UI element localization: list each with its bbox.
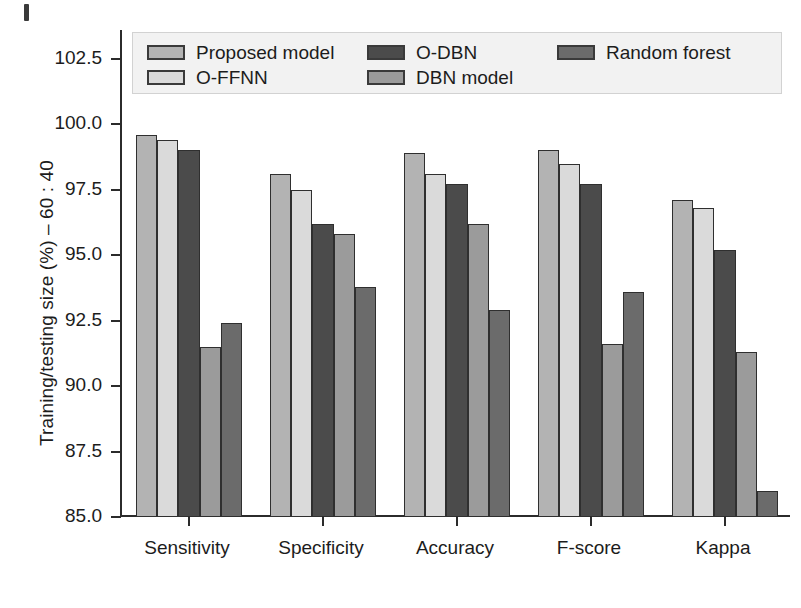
y-axis-tick [111,123,121,125]
y-axis-tick [111,58,121,60]
bar-o-ffnn-kappa [693,208,714,517]
bar-dbn-model-kappa [736,352,757,517]
bar-o-ffnn-specificity [291,190,312,517]
y-axis-tick-label: 100.0 [0,112,102,134]
legend-column-2: O-DBNDBN model [367,40,513,90]
figure: Training/testing size (%) – 60 : 40 85.0… [0,0,801,608]
bar-dbn-model-specificity [334,234,355,517]
legend-label: O-DBN [416,43,477,62]
y-axis-tick-label: 95.0 [0,243,102,265]
x-axis-tick [724,516,726,526]
bar-random-forest-sensitivity [221,323,242,517]
bar-dbn-model-accuracy [468,224,489,517]
legend-label: Random forest [606,43,731,62]
plot-area [120,30,790,517]
legend-entry-o-dbn: O-DBN [367,40,513,65]
y-axis-tick-label: 85.0 [0,505,102,527]
bar-o-dbn-sensitivity [178,150,199,517]
y-axis-tick [111,451,121,453]
legend-swatch-icon [557,45,595,60]
bar-random-forest-accuracy [489,310,510,517]
bar-random-forest-specificity [355,287,376,517]
legend-swatch-icon [367,70,405,85]
legend-column-1: Proposed modelO-FFNN [147,40,334,90]
bar-dbn-model-f-score [602,344,623,517]
y-axis-tick [111,385,121,387]
y-axis-tick [111,254,121,256]
legend-entry-o-ffnn: O-FFNN [147,65,334,90]
legend-swatch-icon [147,45,185,60]
bar-o-ffnn-accuracy [425,174,446,517]
legend-entry-proposed-model: Proposed model [147,40,334,65]
x-axis-tick-label-sensitivity: Sensitivity [144,537,230,559]
bar-random-forest-kappa [757,491,778,517]
bar-random-forest-f-score [623,292,644,517]
legend-swatch-icon [147,70,185,85]
chart-legend: Proposed modelO-FFNN O-DBNDBN model Rand… [132,32,782,94]
bar-o-ffnn-sensitivity [157,140,178,517]
plot-inner [122,30,790,515]
x-axis-tick [456,516,458,526]
bar-o-dbn-f-score [580,184,601,517]
x-axis-tick [188,516,190,526]
legend-column-3: Random forest [557,40,731,65]
legend-swatch-icon [367,45,405,60]
y-axis-tick-label: 90.0 [0,374,102,396]
y-axis-tick-label: 102.5 [0,47,102,69]
bar-proposed-model-f-score [538,150,559,517]
bar-proposed-model-sensitivity [136,135,157,517]
bar-o-dbn-specificity [312,224,333,517]
legend-label: DBN model [416,68,513,87]
bar-o-ffnn-f-score [559,164,580,517]
bar-o-dbn-kappa [714,250,735,517]
x-axis-tick [322,516,324,526]
bar-proposed-model-kappa [672,200,693,517]
x-axis-tick-label-accuracy: Accuracy [416,537,494,559]
bar-o-dbn-accuracy [446,184,467,517]
legend-entry-random-forest: Random forest [557,40,731,65]
y-axis-tick-label: 97.5 [0,178,102,200]
bar-dbn-model-sensitivity [200,347,221,517]
y-axis-tick [111,320,121,322]
x-axis-tick-label-specificity: Specificity [278,537,364,559]
bar-proposed-model-accuracy [404,153,425,517]
legend-label: O-FFNN [196,68,268,87]
legend-label: Proposed model [196,43,334,62]
y-axis-tick [111,516,121,518]
y-axis-tick [111,189,121,191]
legend-entry-dbn-model: DBN model [367,65,513,90]
bar-proposed-model-specificity [270,174,291,517]
x-axis-tick-label-f-score: F-score [557,537,621,559]
y-axis-tick-label: 87.5 [0,440,102,462]
x-axis-tick-label-kappa: Kappa [696,537,751,559]
scan-artifact-mark [24,4,29,21]
x-axis-tick [590,516,592,526]
y-axis-tick-label: 92.5 [0,309,102,331]
